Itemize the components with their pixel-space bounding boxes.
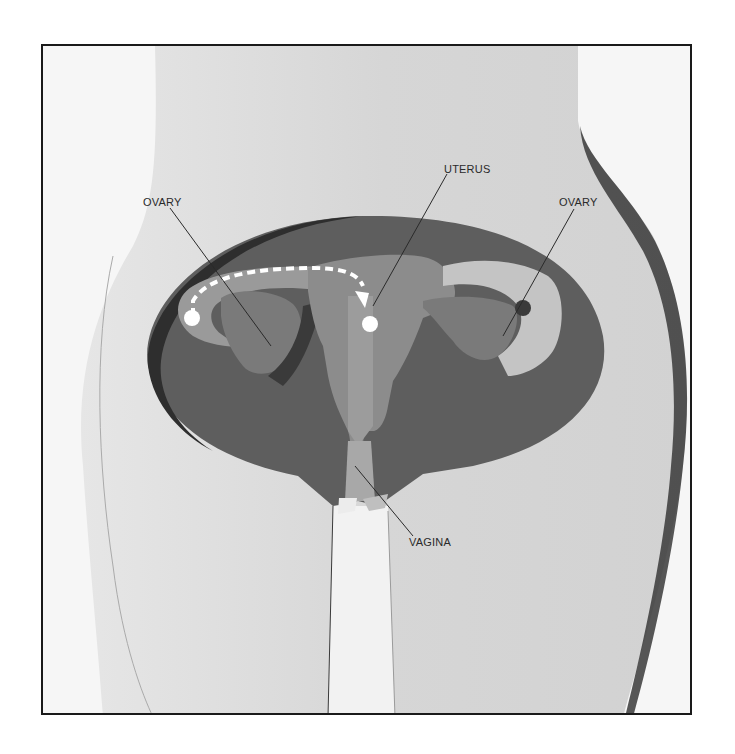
pelvis-illustration — [43, 46, 692, 715]
label-ovary-right: OVARY — [559, 196, 598, 208]
diagram-frame: OVARY UTERUS OVARY VAGINA — [41, 44, 692, 715]
label-uterus: UTERUS — [444, 163, 490, 175]
egg-in-uterus — [362, 316, 378, 332]
egg-at-ovary — [184, 310, 200, 326]
leg-gap — [328, 506, 395, 715]
label-vagina: VAGINA — [409, 536, 451, 548]
vagina-shape — [345, 441, 375, 501]
label-ovary-left: OVARY — [143, 196, 182, 208]
